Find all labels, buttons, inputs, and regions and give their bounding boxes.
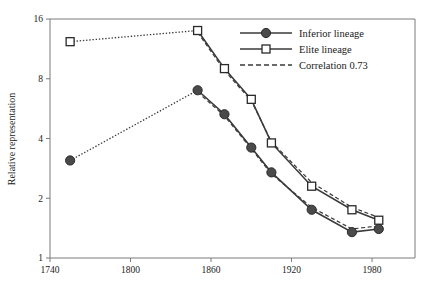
chart-container: 124816 17401800186019201980 Inferior lin… (0, 0, 430, 286)
inferior-lineage-marker (374, 224, 383, 233)
inferior-lineage-marker (220, 110, 229, 119)
legend-label: Correlation 0.73 (299, 60, 368, 71)
inferior-lineage-marker (66, 156, 75, 165)
legend-filled-circle-icon (261, 28, 270, 37)
y-tick-label: 1 (38, 253, 43, 263)
y-axis-title: Relative representation (6, 93, 17, 185)
x-tick-label: 1920 (282, 265, 301, 275)
inferior-lineage-marker (193, 86, 202, 95)
inferior-lineage-marker (267, 168, 276, 177)
y-tick-label: 8 (38, 74, 43, 84)
inferior-lineage-marker (347, 228, 356, 237)
inferior-lineage-marker (247, 143, 256, 152)
relative-representation-line-chart: 124816 17401800186019201980 Inferior lin… (0, 0, 430, 286)
x-tick-label: 1740 (41, 265, 60, 275)
legend-label: Elite lineage (299, 44, 352, 55)
elite-lineage-marker (66, 38, 74, 46)
elite-lineage-marker (308, 182, 316, 190)
chart-background (0, 0, 430, 286)
elite-lineage-marker (267, 139, 275, 147)
inferior-lineage-marker (307, 205, 316, 214)
legend-open-square-icon (262, 45, 270, 53)
x-tick-label: 1860 (202, 265, 221, 275)
elite-lineage-marker (220, 65, 228, 73)
legend-label: Inferior lineage (299, 28, 364, 39)
y-tick-label: 4 (38, 134, 43, 144)
elite-lineage-marker (375, 216, 383, 224)
x-tick-label: 1980 (363, 265, 382, 275)
y-tick-label: 2 (38, 194, 43, 204)
elite-lineage-marker (194, 27, 202, 35)
y-tick-label: 16 (34, 14, 44, 24)
elite-lineage-marker (348, 206, 356, 214)
x-tick-label: 1800 (121, 265, 140, 275)
elite-lineage-marker (247, 95, 255, 103)
